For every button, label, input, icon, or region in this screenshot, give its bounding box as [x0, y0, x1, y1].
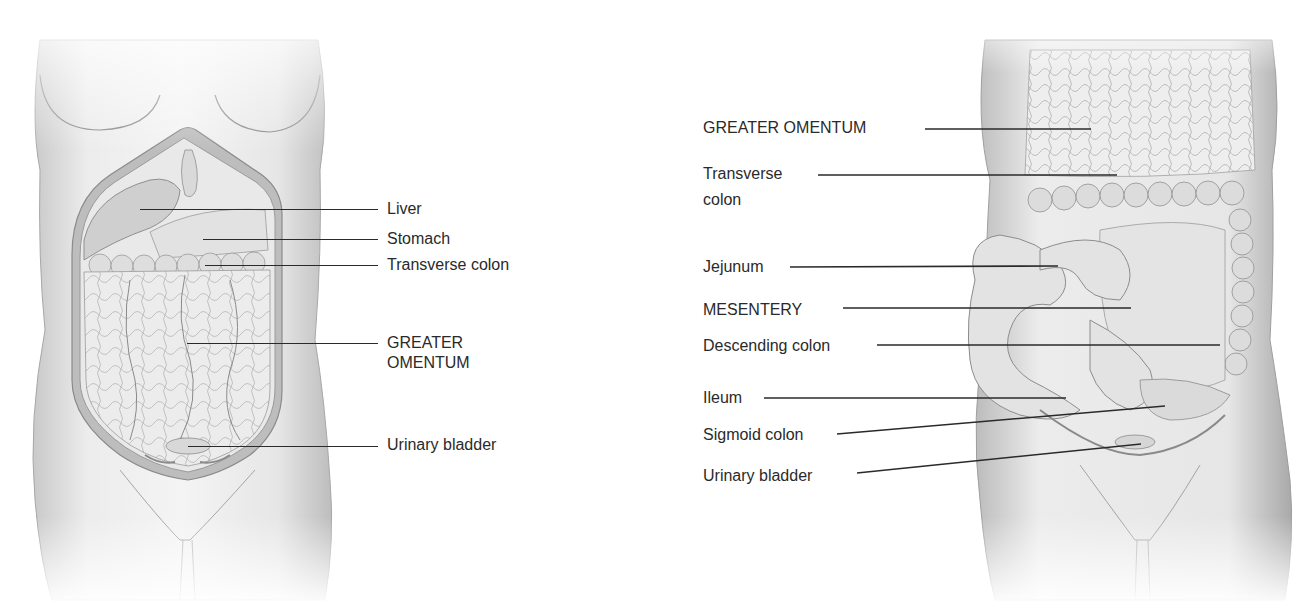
label-ileum: Ileum: [703, 388, 742, 407]
label-mesentery: MESENTERY: [703, 300, 802, 319]
label-transverse-colon-b-line1: Transverse: [703, 164, 782, 183]
leader-line-sigmoid-colon: [837, 406, 1165, 434]
label-transverse-colon-b-line2: colon: [703, 190, 741, 209]
leader-line-jejunum: [790, 266, 1058, 267]
label-greater-omentum-b: GREATER OMENTUM: [703, 118, 866, 137]
label-urinary-bladder-b: Urinary bladder: [703, 466, 812, 485]
label-descending-colon: Descending colon: [703, 336, 830, 355]
leader-line-urinary-bladder-b: [857, 444, 1141, 473]
label-sigmoid-colon: Sigmoid colon: [703, 425, 804, 444]
leader-lines-panel-b: [0, 0, 1313, 607]
label-jejunum: Jejunum: [703, 257, 763, 276]
